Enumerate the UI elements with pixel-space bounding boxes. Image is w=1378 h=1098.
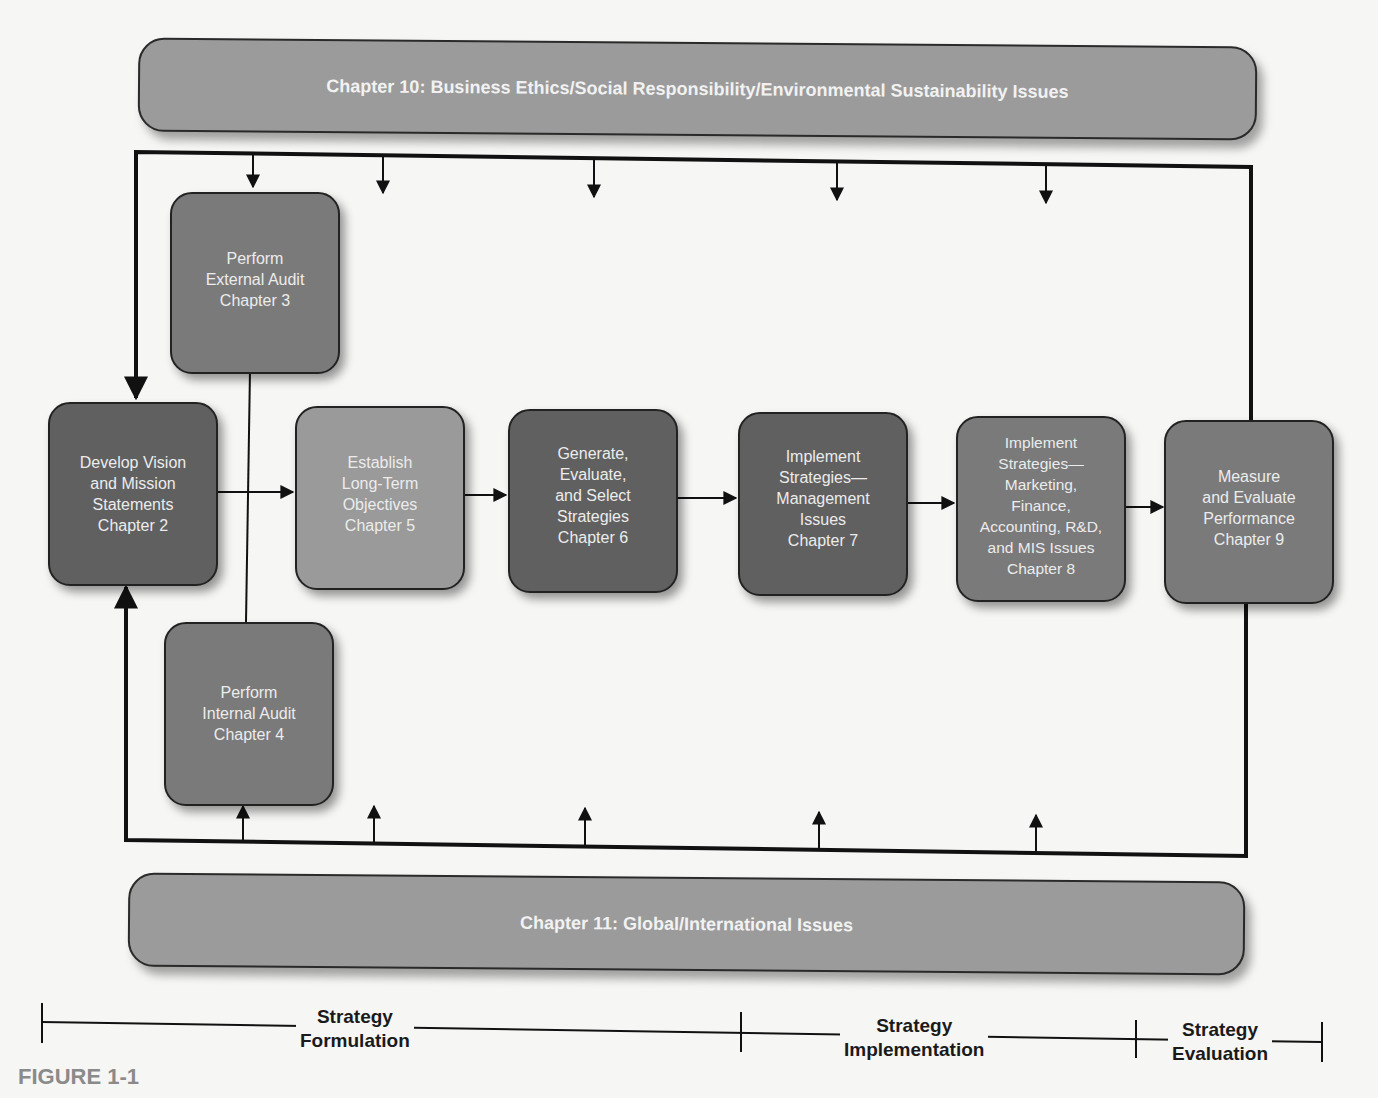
- box-line: Strategies—: [776, 467, 869, 488]
- figure-caption: FIGURE 1-1: [18, 1064, 139, 1090]
- box-line: Management: [776, 488, 869, 509]
- phase-line: Formulation: [300, 1029, 410, 1053]
- box-generate-strategies: Generate, Evaluate, and Select Strategie…: [508, 409, 678, 593]
- box-line: Strategies—: [980, 453, 1102, 474]
- box-line: Evaluate,: [555, 464, 631, 485]
- box-line: Implement: [776, 446, 869, 467]
- box-line: Strategies: [555, 506, 631, 527]
- box-internal-audit: Perform Internal Audit Chapter 4: [164, 622, 334, 806]
- phase-line: Strategy: [300, 1005, 410, 1029]
- box-line: Chapter 5: [342, 515, 418, 536]
- phase-formulation-label: Strategy Formulation: [296, 1005, 414, 1053]
- box-long-term-objectives: Establish Long-Term Objectives Chapter 5: [295, 406, 465, 590]
- phase-line: Strategy: [1172, 1018, 1268, 1042]
- box-line: Marketing,: [980, 474, 1102, 495]
- box-line: Chapter 3: [206, 290, 305, 311]
- box-line: Issues: [776, 509, 869, 530]
- box-line: and Select: [555, 485, 631, 506]
- box-line: Chapter 2: [98, 515, 168, 536]
- phase-line: Implementation: [844, 1038, 984, 1062]
- box-line: Perform: [206, 248, 305, 269]
- box-line: Chapter 9: [1202, 529, 1295, 550]
- phase-implementation-label: Strategy Implementation: [840, 1014, 988, 1062]
- banner-global-chapter11: Chapter 11: Global/International Issues: [128, 873, 1246, 976]
- box-implement-functional: Implement Strategies— Marketing, Finance…: [956, 416, 1126, 602]
- box-line: Establish: [342, 452, 418, 473]
- box-line: Chapter 8: [980, 558, 1102, 579]
- box-line: Implement: [980, 432, 1102, 453]
- phase-evaluation-label: Strategy Evaluation: [1168, 1018, 1272, 1066]
- box-line: Develop Vision: [80, 452, 186, 473]
- phase-line: Strategy: [844, 1014, 984, 1038]
- box-line: Perform: [202, 682, 295, 703]
- box-external-audit: Perform External Audit Chapter 3: [170, 192, 340, 374]
- box-line: Objectives: [342, 494, 418, 515]
- box-measure-evaluate: Measure and Evaluate Performance Chapter…: [1164, 420, 1334, 604]
- box-line: Finance,: [980, 495, 1102, 516]
- box-line: Statements: [93, 494, 174, 515]
- box-line: Long-Term: [342, 473, 418, 494]
- box-line: Measure: [1202, 466, 1295, 487]
- phase-line: Evaluation: [1172, 1042, 1268, 1066]
- box-line: Accounting, R&D,: [980, 516, 1102, 537]
- box-vision-mission: Develop Vision and Mission Statements Ch…: [48, 402, 218, 586]
- box-line: and Mission: [90, 473, 175, 494]
- box-line: Chapter 4: [202, 724, 295, 745]
- box-line: Generate,: [555, 443, 631, 464]
- banner-global-label: Chapter 11: Global/International Issues: [520, 912, 853, 936]
- box-implement-management: Implement Strategies— Management Issues …: [738, 412, 908, 596]
- box-line: Chapter 7: [776, 530, 869, 551]
- box-line: External Audit: [206, 269, 305, 290]
- box-line: Performance: [1202, 508, 1295, 529]
- box-line: and Evaluate: [1202, 487, 1295, 508]
- box-line: Internal Audit: [202, 703, 295, 724]
- box-line: Chapter 6: [555, 527, 631, 548]
- box-line: and MIS Issues: [980, 537, 1102, 558]
